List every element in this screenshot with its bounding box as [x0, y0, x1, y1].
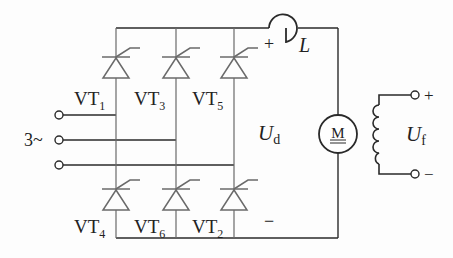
field-minus-sign: − — [424, 165, 434, 184]
circuit-svg: M VT1 VT3 VT5 VT4 VT6 VT2 3~ + L − Ud Uf… — [0, 0, 453, 258]
terminal-field-minus — [411, 170, 419, 178]
dc-voltage-label: Ud — [258, 121, 280, 147]
motor-label: M — [331, 125, 344, 141]
dc-minus-sign: − — [264, 211, 274, 231]
thyristor-icon-vt2 — [220, 180, 258, 210]
svg-text:VT4: VT4 — [74, 216, 105, 241]
field-plus-sign: + — [424, 86, 434, 105]
terminal-phase-b — [55, 136, 63, 144]
svg-text:VT5: VT5 — [192, 88, 223, 113]
terminal-phase-a — [55, 111, 63, 119]
inductor-label: L — [298, 34, 310, 56]
thyristor-icon-vt4 — [102, 180, 140, 210]
circuit-diagram: M VT1 VT3 VT5 VT4 VT6 VT2 3~ + L − Ud Uf… — [0, 0, 453, 258]
svg-text:VT2: VT2 — [192, 216, 223, 241]
svg-text:VT1: VT1 — [74, 88, 105, 113]
field-voltage-label: Uf — [406, 122, 426, 148]
thyristor-icon-vt5 — [220, 48, 258, 78]
terminal-phase-c — [55, 161, 63, 169]
thyristor-icon-vt6 — [162, 180, 200, 210]
dc-plus-sign: + — [264, 34, 274, 54]
ac-input-label: 3~ — [24, 130, 43, 150]
svg-text:VT3: VT3 — [134, 88, 165, 113]
thyristor-icon-vt1 — [102, 48, 140, 78]
terminal-field-plus — [411, 91, 419, 99]
thyristor-icon-vt3 — [162, 48, 200, 78]
svg-text:VT6: VT6 — [134, 216, 165, 241]
